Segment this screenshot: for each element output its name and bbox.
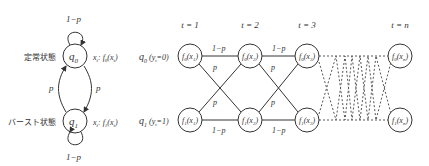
edge-label-switch-2a: p xyxy=(270,63,275,72)
transition-q0-to-q1 xyxy=(84,66,92,112)
edge-label-stay-bottom-1: 1−p xyxy=(212,126,225,135)
trellis-node-bottom-2: f1(x2) xyxy=(238,108,262,132)
state-q1-emission: xt: f1(xt) xyxy=(92,118,118,128)
transition-q1-to-q0 xyxy=(59,66,67,112)
state-q0-emission: xt: f0(xt) xyxy=(92,53,118,63)
row-label-q1: q1 (yt=1) xyxy=(139,115,169,128)
trellis-node-top-2: f0(x2) xyxy=(238,44,262,68)
state-q0-label: 定常状態 xyxy=(24,52,56,62)
self-loop-q1-label: 1−p xyxy=(66,152,82,162)
edge-label-switch-1a: p xyxy=(212,63,217,72)
self-loop-q0 xyxy=(68,32,83,45)
self-loop-q1 xyxy=(68,132,83,145)
self-loop-q0-label: 1−p xyxy=(66,14,82,24)
trellis-node-bottom-1: f1(x1) xyxy=(178,108,202,132)
transition-right-label: p xyxy=(95,83,101,93)
edge-label-stay-top-1: 1−p xyxy=(212,44,225,53)
time-label-1: t = 1 xyxy=(181,20,199,30)
state-diagram: 1−p q0 定常状態 xt: f0(xt) p p q1 バースト状態 xt:… xyxy=(8,14,118,162)
dashed-ellipsis-edges xyxy=(319,56,391,120)
trellis-node-top-1: f0(x1) xyxy=(178,44,202,68)
row-label-q0: q0 (yt=0) xyxy=(139,51,169,64)
time-label-2: t = 2 xyxy=(241,20,259,30)
hmm-diagram: 1−p q0 定常状態 xt: f0(xt) p p q1 バースト状態 xt:… xyxy=(0,0,429,166)
trellis-node-top-3: f0(x3) xyxy=(295,44,319,68)
trellis-node-bottom-n: f1(xn) xyxy=(388,108,412,132)
time-label-3: t = 3 xyxy=(298,20,316,30)
edge-label-switch-2b: p xyxy=(270,98,275,107)
edge-label-stay-top-2: 1−p xyxy=(272,44,285,53)
trellis-node-bottom-3: f1(x3) xyxy=(295,108,319,132)
transition-left-label: p xyxy=(48,83,54,93)
edge-label-switch-1b: p xyxy=(212,98,217,107)
trellis-diagram: t = 1 t = 2 t = 3 t = n q0 (yt=0) q1 (yt… xyxy=(139,20,412,135)
edge-label-stay-bottom-2: 1−p xyxy=(272,126,285,135)
state-q1-label: バースト状態 xyxy=(8,117,56,127)
time-label-n: t = n xyxy=(391,20,409,30)
trellis-node-top-n: f0(xn) xyxy=(388,44,412,68)
